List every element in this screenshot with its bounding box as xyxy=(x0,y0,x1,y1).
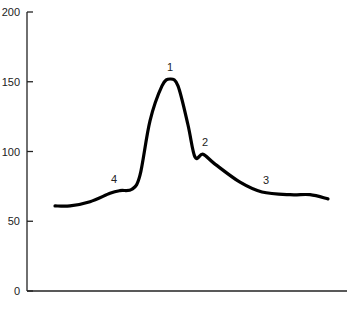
point-label-1: 1 xyxy=(167,61,173,73)
y-ticks: 050100150200 xyxy=(2,6,33,297)
y-tick-label: 0 xyxy=(14,285,20,297)
y-tick-label: 50 xyxy=(8,215,20,227)
y-tick-label: 200 xyxy=(2,6,20,18)
y-tick-label: 150 xyxy=(2,76,20,88)
y-tick-label: 100 xyxy=(2,146,20,158)
point-label-3: 3 xyxy=(263,174,269,186)
point-label-4: 4 xyxy=(111,173,117,185)
data-line xyxy=(55,79,328,206)
axes xyxy=(27,12,347,291)
line-chart: 050100150200 1234 xyxy=(0,0,349,309)
point-annotations: 1234 xyxy=(111,61,269,186)
point-label-2: 2 xyxy=(202,136,208,148)
